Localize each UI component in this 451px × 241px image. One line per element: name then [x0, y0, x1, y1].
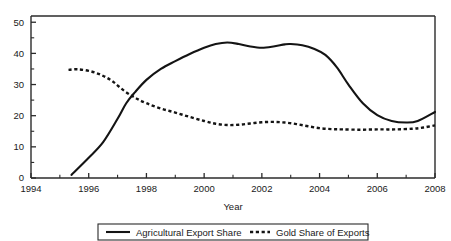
legend-label-gold-share-of-exports: Gold Share of Exports [276, 227, 370, 238]
x-tick-label: 2004 [309, 183, 330, 194]
y-tick-label: 10 [13, 141, 24, 152]
x-tick-label: 2006 [367, 183, 388, 194]
y-tick-label: 0 [19, 172, 24, 183]
y-tick-label: 50 [13, 17, 24, 28]
line-chart: 01020304050 1994199619982000200220042006… [0, 0, 451, 241]
y-tick-label: 30 [13, 79, 24, 90]
x-tick-label: 2000 [194, 183, 215, 194]
x-tick-label: 1994 [20, 183, 41, 194]
chart-figure: 01020304050 1994199619982000200220042006… [0, 0, 451, 241]
x-tick-label: 1996 [78, 183, 99, 194]
x-tick-label: 1998 [136, 183, 157, 194]
legend-label-agricultural-export-share: Agricultural Export Share [136, 227, 242, 238]
x-tick-label: 2008 [424, 183, 445, 194]
x-axis-title: Year [223, 201, 242, 212]
x-tick-label: 2002 [251, 183, 272, 194]
y-tick-label: 20 [13, 110, 24, 121]
y-tick-label: 40 [13, 48, 24, 59]
